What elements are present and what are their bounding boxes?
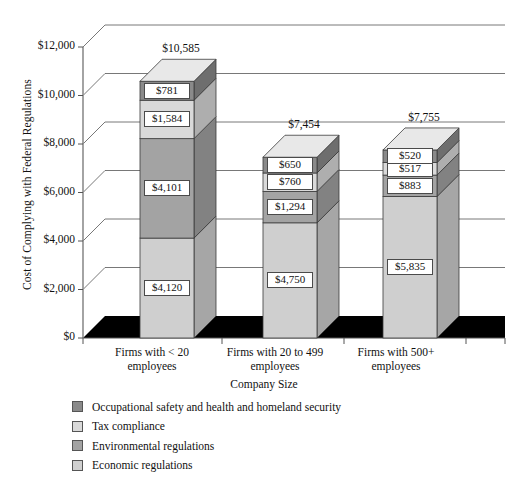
y-tick-$0: $0 (10, 330, 75, 342)
legend-label-3: Economic regulations (92, 459, 193, 471)
bar-segment-side (317, 201, 339, 338)
x-tick-0: Firms with < 20employees (82, 346, 222, 373)
y-tick-$4,000: $4,000 (10, 233, 75, 245)
segment-value-0-3: $781 (144, 83, 190, 99)
x-tick-2-line-1: employees (326, 360, 466, 374)
legend-item-3: Economic regulations (72, 457, 502, 474)
y-tick-$2,000: $2,000 (10, 282, 75, 294)
x-tick-2-line-0: Firms with 500+ (326, 346, 466, 360)
y-tick-$6,000: $6,000 (10, 185, 75, 197)
legend-swatch-tax-compliance (72, 421, 83, 432)
x-axis-title: Company Size (0, 378, 528, 390)
x-tick-1-line-0: Firms with 20 to 499 (205, 346, 345, 360)
x-tick-2: Firms with 500+employees (326, 346, 466, 373)
legend-label-2: Environmental regulations (92, 440, 214, 452)
legend-label-0: Occupational safety and health and homel… (92, 401, 341, 413)
legend-item-0: Occupational safety and health and homel… (72, 398, 502, 415)
y-tick-$12,000: $12,000 (10, 39, 75, 51)
x-tick-0-line-0: Firms with < 20 (82, 346, 222, 360)
legend-swatch-economic (72, 460, 83, 471)
segment-value-0-2: $1,584 (144, 111, 190, 127)
segment-value-1-0: $4,750 (267, 272, 313, 288)
segment-value-0-0: $4,120 (144, 280, 190, 296)
x-tick-1: Firms with 20 to 499employees (205, 346, 345, 373)
legend-swatch-environmental (72, 440, 83, 451)
segment-value-1-1: $1,294 (267, 199, 313, 215)
bar-total-1: $7,454 (244, 118, 364, 130)
segment-value-1-3: $650 (267, 157, 313, 173)
segment-value-2-0: $5,835 (387, 259, 433, 275)
bar-total-2: $7,755 (364, 111, 484, 123)
legend-item-1: Tax compliance (72, 418, 502, 435)
segment-value-0-1: $4,101 (144, 180, 190, 196)
bar-group-0 (140, 59, 216, 338)
y-tick-$8,000: $8,000 (10, 136, 75, 148)
segment-value-2-1: $883 (387, 178, 433, 194)
bar-segment-side (437, 175, 459, 338)
x-tick-1-line-1: employees (205, 360, 345, 374)
bar-total-0: $10,585 (121, 42, 241, 54)
segment-value-1-2: $760 (267, 174, 313, 190)
legend-item-2: Environmental regulations (72, 437, 502, 454)
legend-label-1: Tax compliance (92, 420, 165, 432)
y-tick-$10,000: $10,000 (10, 88, 75, 100)
chart-legend: Occupational safety and health and homel… (72, 398, 502, 476)
segment-value-2-3: $520 (387, 148, 433, 164)
legend-swatch-occupational-safety (72, 401, 83, 412)
x-tick-0-line-1: employees (82, 360, 222, 374)
